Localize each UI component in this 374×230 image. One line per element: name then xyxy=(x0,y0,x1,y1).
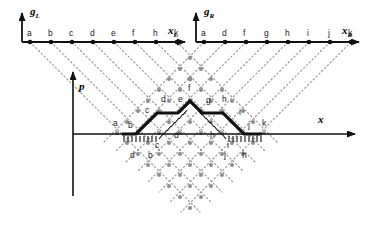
path-label-upper-j: j xyxy=(248,120,250,130)
path-label-upper-d: d xyxy=(161,94,166,104)
x-axis-label: x xyxy=(318,113,324,125)
left-g-axis-label: gL xyxy=(30,5,40,20)
path-label-upper-f: f xyxy=(188,83,190,93)
left-tick-label-b: b xyxy=(48,28,53,38)
left-tick-label-e: e xyxy=(111,28,116,38)
path-label-upper-c: c xyxy=(145,105,149,115)
profile-path xyxy=(122,101,262,134)
right-axis-group xyxy=(196,13,359,44)
right-tick-label-h: h xyxy=(285,28,290,38)
right-g-axis-label: gR xyxy=(204,5,214,20)
p-axis-label: p xyxy=(79,80,85,92)
right-tick-label-k: k xyxy=(348,28,352,38)
path-label-upper-k: k xyxy=(262,118,266,128)
right-tick-label-f: f xyxy=(243,28,245,38)
path-label-upper-i: i xyxy=(239,107,241,117)
path-label-lower-j: j xyxy=(224,150,226,160)
path-label-upper-a: a xyxy=(113,118,118,128)
right-tick-label-d: d xyxy=(222,28,227,38)
path-label-upper-b: b xyxy=(128,120,133,130)
left-tick-label-h: h xyxy=(153,28,158,38)
path-label-lower-d: d xyxy=(174,130,179,140)
path-label-lower-c: c xyxy=(155,140,159,150)
right-tick-label-j: j xyxy=(328,28,330,38)
figure-canvas: gL xL gR xR p x a b c d e f h k a d f g … xyxy=(0,0,374,230)
left-tick-label-f: f xyxy=(132,28,134,38)
path-label-lower-h: h xyxy=(210,130,215,140)
left-tick-label-c: c xyxy=(69,28,73,38)
left-tick-label-a: a xyxy=(27,28,32,38)
path-label-upper-g: g xyxy=(206,95,211,105)
right-tick-label-i: i xyxy=(307,28,309,38)
right-tick-label-a: a xyxy=(201,28,206,38)
left-tick-label-d: d xyxy=(90,28,95,38)
path-label-lower-b: b xyxy=(148,150,153,160)
left-axis-group xyxy=(22,13,185,44)
path-label-upper-e: e xyxy=(178,94,183,104)
right-tick-label-g: g xyxy=(264,28,269,38)
path-label-upper-h: h xyxy=(222,94,227,104)
path-label-lower-i: i xyxy=(227,140,229,150)
left-tick-label-k: k xyxy=(174,28,178,38)
path-label-lower-d2: d xyxy=(130,150,135,160)
path-label-lower-h2: h xyxy=(242,150,247,160)
